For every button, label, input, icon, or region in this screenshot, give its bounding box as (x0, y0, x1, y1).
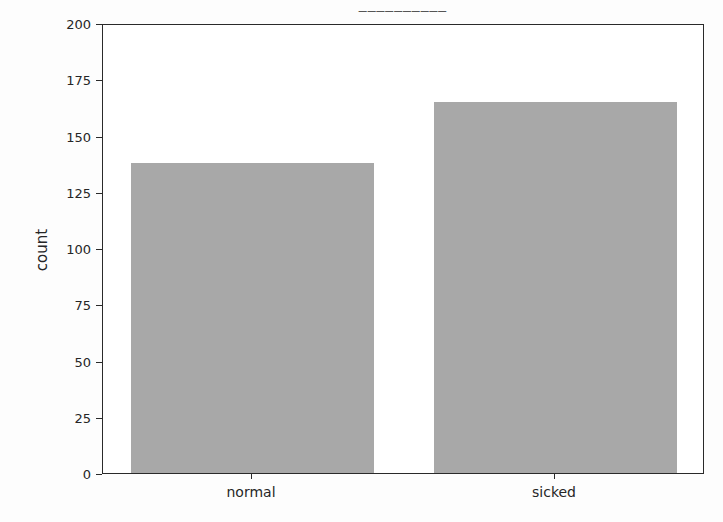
ytick-125 (96, 193, 102, 194)
y-axis-title: count (33, 229, 51, 271)
ytick-label-25: 25 (74, 410, 91, 425)
plot-area (102, 24, 704, 474)
xtick-label-normal: normal (226, 484, 275, 500)
bar-normal (131, 163, 374, 474)
ytick-150 (96, 137, 102, 138)
xtick-label-sicked: sicked (532, 484, 576, 500)
ytick-175 (96, 80, 102, 81)
ytick-0 (96, 474, 102, 475)
ytick-100 (96, 249, 102, 250)
ytick-75 (96, 305, 102, 306)
ytick-50 (96, 362, 102, 363)
ytick-label-175: 175 (66, 73, 91, 88)
chart-canvas: ────────── 0 25 50 75 100 125 150 175 20… (0, 0, 723, 522)
xtick-sicked (554, 474, 555, 479)
bar-sicked (434, 102, 677, 473)
ytick-label-75: 75 (74, 298, 91, 313)
ytick-25 (96, 418, 102, 419)
ytick-label-0: 0 (83, 467, 91, 482)
ytick-label-125: 125 (66, 185, 91, 200)
ytick-label-150: 150 (66, 129, 91, 144)
xtick-normal (251, 474, 252, 479)
chart-title: ────────── (359, 4, 447, 19)
ytick-label-50: 50 (74, 354, 91, 369)
ytick-label-200: 200 (66, 17, 91, 32)
ytick-200 (96, 24, 102, 25)
ytick-label-100: 100 (66, 242, 91, 257)
